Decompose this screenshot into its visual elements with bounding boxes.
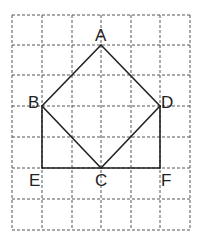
dashed-grid bbox=[12, 15, 190, 230]
geometry-diagram: A B D E C F bbox=[0, 0, 199, 244]
label-d: D bbox=[161, 93, 173, 112]
label-a: A bbox=[95, 26, 107, 45]
label-b: B bbox=[28, 93, 39, 112]
label-e: E bbox=[29, 171, 40, 190]
label-f: F bbox=[161, 171, 171, 190]
label-c: C bbox=[95, 171, 107, 190]
